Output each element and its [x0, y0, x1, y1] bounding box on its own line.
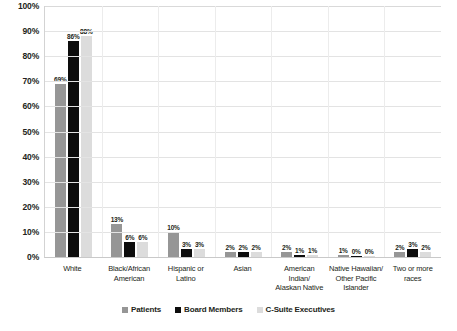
category-separator [215, 6, 216, 257]
gridline [45, 31, 441, 32]
bar-value-label: 2% [421, 244, 430, 251]
x-axis-label-line: White [45, 264, 100, 274]
bar-value-label: 2% [282, 244, 291, 251]
bar-value-label: 2% [252, 244, 261, 251]
x-axis-label-line: Native Hawaiian/ [329, 264, 384, 274]
bar[interactable]: 3% [181, 249, 192, 257]
legend-swatch-icon [257, 307, 263, 313]
chart-legend: PatientsBoard MembersC-Suite Executives [0, 305, 457, 314]
bar-value-label: 3% [195, 241, 204, 248]
x-axis-label-line: Other Pacific [329, 274, 384, 284]
y-axis-tick: 60% [23, 101, 39, 111]
bar-value-label: 2% [395, 244, 404, 251]
bar[interactable]: 1% [307, 255, 318, 258]
x-axis-label: Native Hawaiian/Other PacificIslander [328, 264, 385, 293]
bar-value-label: 6% [125, 234, 134, 241]
x-axis-label-line: Islander [329, 283, 384, 293]
category-separator [158, 6, 159, 257]
x-axis-label-line: Latino [158, 274, 213, 284]
bar-value-label: 6% [138, 234, 147, 241]
legend-swatch-icon [175, 307, 181, 313]
legend-label: Patients [131, 305, 161, 314]
x-axis-label: Hispanic orLatino [157, 264, 214, 293]
bar-chart: 100%90%80%70%60%50%40%30%20%10%0% 69%86%… [0, 0, 457, 331]
bar[interactable]: 2% [225, 252, 236, 257]
y-axis-tick: 50% [23, 127, 39, 137]
y-axis-tick: 100% [18, 1, 39, 11]
x-axis-label: Asian [214, 264, 271, 293]
bar[interactable]: 10% [168, 232, 179, 257]
y-axis-tick: 90% [23, 26, 39, 36]
y-axis-tick: 0% [27, 252, 39, 262]
gridline [45, 182, 441, 183]
x-axis-label-line: Black/African [102, 264, 157, 274]
x-axis-label-line: Hispanic or [158, 264, 213, 274]
bar-value-label: 0% [365, 248, 374, 255]
x-axis-label: Black/AfricanAmerican [101, 264, 158, 293]
bar[interactable]: 3% [194, 249, 205, 257]
x-axis-label-line: Two or more [385, 264, 440, 274]
y-axis: 100%90%80%70%60%50%40%30%20%10%0% [0, 6, 44, 258]
gridline [45, 56, 441, 57]
legend-swatch-icon [122, 307, 128, 313]
bar-value-label: 3% [182, 241, 191, 248]
x-axis-labels: WhiteBlack/AfricanAmericanHispanic orLat… [44, 264, 441, 293]
bar-value-label: 2% [226, 244, 235, 251]
x-axis-label-line: Indian/ [272, 274, 327, 284]
bar-value-label: 1% [339, 247, 348, 254]
bar[interactable]: 2% [281, 252, 292, 257]
bar[interactable]: 3% [407, 249, 418, 257]
bar[interactable]: 13% [111, 224, 122, 257]
y-axis-tick: 40% [23, 152, 39, 162]
bar[interactable]: 6% [124, 242, 135, 257]
category-separator [328, 6, 329, 257]
legend-item[interactable]: C-Suite Executives [257, 305, 335, 314]
bar[interactable]: 1% [294, 255, 305, 258]
gridline [45, 157, 441, 158]
bar[interactable]: 0% [351, 256, 362, 258]
y-axis-tick: 10% [23, 227, 39, 237]
category-separator [102, 6, 103, 257]
bar[interactable]: 1% [338, 255, 349, 258]
gridline [45, 6, 441, 7]
bar-value-label: 3% [408, 241, 417, 248]
x-axis-label-line: races [385, 274, 440, 284]
x-axis-label-line: American [272, 264, 327, 274]
gridline [45, 106, 441, 107]
category-separator [384, 6, 385, 257]
bar-value-label: 1% [308, 247, 317, 254]
y-axis-tick: 20% [23, 202, 39, 212]
gridline [45, 81, 441, 82]
gridline [45, 132, 441, 133]
legend-item[interactable]: Patients [122, 305, 161, 314]
y-axis-tick: 70% [23, 76, 39, 86]
category-separator [271, 6, 272, 257]
x-axis-label: Two or moreraces [384, 264, 441, 293]
bar[interactable]: 2% [394, 252, 405, 257]
bar-value-label: 10% [167, 224, 179, 231]
bar-value-label: 2% [239, 244, 248, 251]
x-axis-label-line: American [102, 274, 157, 284]
legend-label: C-Suite Executives [266, 305, 335, 314]
legend-item[interactable]: Board Members [175, 305, 243, 314]
bar[interactable]: 6% [137, 242, 148, 257]
x-axis-label: AmericanIndian/Alaskan Native [271, 264, 328, 293]
gridline [45, 207, 441, 208]
plot-wrapper: 100%90%80%70%60%50%40%30%20%10%0% 69%86%… [0, 6, 457, 264]
x-axis-label-line: Alaskan Native [272, 283, 327, 293]
plot-area: 69%86%88%13%6%6%10%3%3%2%2%2%2%1%1%1%0%0… [44, 6, 441, 258]
bar[interactable]: 2% [420, 252, 431, 257]
x-axis-label-line: Asian [215, 264, 270, 274]
bar[interactable]: 88% [81, 36, 92, 257]
bar[interactable]: 86% [68, 41, 79, 257]
bar[interactable]: 2% [251, 252, 262, 257]
legend-label: Board Members [184, 305, 243, 314]
bar[interactable]: 2% [238, 252, 249, 257]
bar-value-label: 0% [352, 248, 361, 255]
bar-value-label: 86% [67, 33, 79, 40]
bar-value-label: 13% [111, 216, 123, 223]
bar[interactable]: 0% [364, 256, 375, 258]
x-axis-label: White [44, 264, 101, 293]
bar-value-label: 1% [295, 247, 304, 254]
y-axis-tick: 80% [23, 51, 39, 61]
